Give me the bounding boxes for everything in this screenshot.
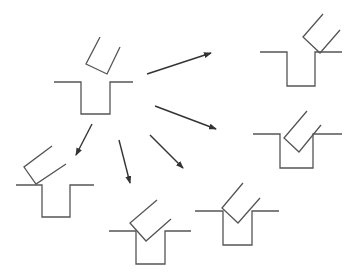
arrow-to-bottom-right	[150, 135, 183, 168]
arrow-to-right-middle	[155, 106, 216, 129]
slot-outline	[54, 82, 133, 114]
slot-outline	[195, 211, 279, 245]
shapes-layer	[16, 14, 342, 264]
outcome-top-right	[260, 14, 342, 86]
slot-outline	[260, 52, 342, 86]
arrows-layer	[76, 53, 216, 183]
arrow-to-left	[76, 124, 92, 155]
outcome-bottom-center	[109, 200, 191, 264]
arrow-to-top-right	[147, 53, 211, 74]
tilted-piece	[24, 146, 66, 184]
insertion-outcomes-diagram	[0, 0, 356, 279]
slot-outline	[109, 231, 191, 264]
tilted-piece	[303, 14, 340, 53]
outcome-left	[16, 146, 94, 217]
slot-outline	[16, 185, 94, 217]
tilted-piece	[86, 37, 120, 74]
diagram-canvas	[0, 0, 356, 279]
source-configuration	[54, 37, 133, 114]
tilted-piece	[222, 183, 260, 223]
outcome-bottom-right	[195, 183, 279, 245]
outcome-right-middle	[253, 111, 342, 168]
arrow-to-bottom-center	[119, 140, 130, 183]
tilted-piece	[284, 111, 321, 152]
